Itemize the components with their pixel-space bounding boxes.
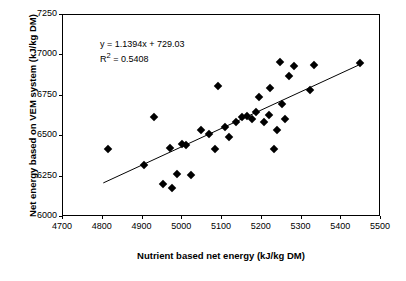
regression-equation: y = 1.1394x + 729.03	[100, 38, 185, 50]
data-point	[225, 133, 233, 141]
data-point	[165, 144, 173, 152]
x-tick-label: 5400	[320, 221, 360, 231]
y-tick-mark	[59, 135, 62, 136]
y-tick-mark	[59, 54, 62, 55]
y-tick-mark	[59, 176, 62, 177]
x-tick-mark	[102, 216, 103, 219]
data-point	[278, 100, 286, 108]
x-tick-label: 4900	[122, 221, 162, 231]
y-tick-mark	[59, 95, 62, 96]
data-point	[259, 118, 267, 126]
data-point	[356, 59, 364, 67]
x-tick-mark	[62, 216, 63, 219]
x-tick-label: 4800	[82, 221, 122, 231]
x-tick-label: 5100	[201, 221, 241, 231]
data-point	[275, 57, 283, 65]
x-tick-mark	[181, 216, 182, 219]
data-point	[281, 114, 289, 122]
data-point	[159, 179, 167, 187]
data-point	[168, 184, 176, 192]
data-point	[103, 145, 111, 153]
y-tick-mark	[59, 14, 62, 15]
data-point	[285, 72, 293, 80]
data-point	[232, 118, 240, 126]
x-axis-title: Nutrient based net energy (kJ/kg DM)	[62, 250, 380, 261]
data-point	[310, 61, 318, 69]
data-point	[214, 82, 222, 90]
x-tick-mark	[340, 216, 341, 219]
data-point	[182, 140, 190, 148]
r-squared-value: R2 = 0.5408	[100, 50, 185, 65]
scatter-chart: 600062506500675070007250 470048004900500…	[0, 0, 406, 281]
x-tick-label: 5200	[241, 221, 281, 231]
data-point	[265, 111, 273, 119]
data-point	[290, 62, 298, 70]
r-squared-number: = 0.5408	[111, 54, 149, 64]
data-point	[273, 126, 281, 134]
x-tick-mark	[301, 216, 302, 219]
regression-annotation: y = 1.1394x + 729.03 R2 = 0.5408	[100, 38, 185, 65]
data-point	[140, 161, 148, 169]
data-point	[306, 85, 314, 93]
data-point	[205, 130, 213, 138]
data-point	[254, 93, 262, 101]
x-tick-mark	[221, 216, 222, 219]
data-point	[211, 145, 219, 153]
x-tick-label: 4700	[42, 221, 82, 231]
data-point	[270, 145, 278, 153]
x-tick-mark	[142, 216, 143, 219]
data-point	[187, 170, 195, 178]
data-point	[266, 84, 274, 92]
x-tick-mark	[380, 216, 381, 219]
data-point	[221, 122, 229, 130]
data-point	[150, 113, 158, 121]
x-tick-label: 5000	[161, 221, 201, 231]
data-point	[173, 169, 181, 177]
x-tick-mark	[261, 216, 262, 219]
y-axis-title: Net energy based on VEM system (kJ/kg DM…	[27, 0, 38, 236]
x-tick-label: 5300	[281, 221, 321, 231]
x-tick-label: 5500	[360, 221, 400, 231]
